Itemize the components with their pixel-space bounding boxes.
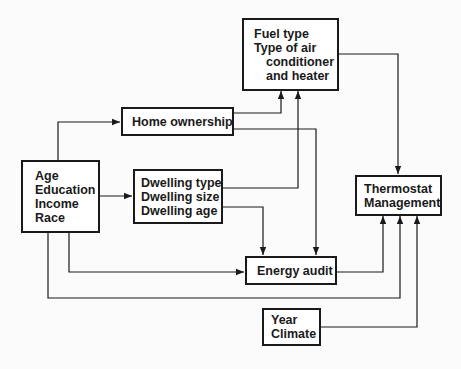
node-demographics: Age Education Income Race xyxy=(21,160,100,233)
edge-demographics-home-ownership xyxy=(58,122,120,160)
node-dwelling-line-2: Dwelling size xyxy=(141,190,221,204)
node-fuel-line-4: and heater xyxy=(254,69,337,83)
diagram-canvas: Fuel type Type of air conditioner and he… xyxy=(0,0,461,369)
node-year-climate: Year Climate xyxy=(262,308,321,346)
node-fuel-line-3: conditioner xyxy=(254,55,337,69)
edge-demographics-energy-audit xyxy=(69,232,244,272)
node-demographics-line-4: Race xyxy=(35,211,98,225)
edge-dwelling-fuel xyxy=(222,91,298,188)
edge-fuel-thermostat xyxy=(338,54,398,174)
node-demographics-line-3: Income xyxy=(35,197,98,211)
node-home-ownership: Home ownership xyxy=(121,107,234,136)
node-dwelling-line-1: Dwelling type xyxy=(141,176,221,190)
node-energy-audit-label: Energy audit xyxy=(257,264,335,278)
edge-home-ownership-fuel xyxy=(233,91,281,113)
node-dwelling: Dwelling type Dwelling size Dwelling age xyxy=(133,169,223,224)
node-thermostat-line-1: Thermostat xyxy=(364,182,440,196)
node-dwelling-line-3: Dwelling age xyxy=(141,204,221,218)
edge-dwelling-energy-audit xyxy=(222,207,263,255)
node-demographics-line-2: Education xyxy=(35,183,98,197)
node-thermostat: Thermostat Management xyxy=(355,175,442,216)
node-thermostat-line-2: Management xyxy=(364,196,440,210)
node-fuel-line-2: Type of air xyxy=(254,41,337,55)
edge-energy-audit-thermostat xyxy=(336,216,383,272)
node-demographics-line-1: Age xyxy=(35,169,98,183)
node-year-climate-line-2: Climate xyxy=(271,327,319,341)
node-home-ownership-label: Home ownership xyxy=(132,115,232,129)
edge-demographics-thermostat xyxy=(48,216,400,298)
node-year-climate-line-1: Year xyxy=(271,313,319,327)
node-fuel-line-1: Fuel type xyxy=(254,27,337,41)
node-energy-audit: Energy audit xyxy=(245,256,337,285)
node-fuel: Fuel type Type of air conditioner and he… xyxy=(242,18,339,91)
edge-home-ownership-energy-audit xyxy=(233,129,316,255)
